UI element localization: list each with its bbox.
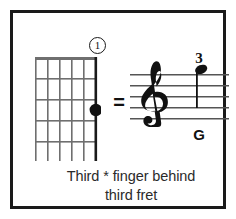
fretboard-nut bbox=[35, 57, 97, 60]
string-line bbox=[35, 57, 37, 161]
string-line bbox=[47, 57, 49, 161]
string-line bbox=[71, 57, 73, 161]
fret-line bbox=[35, 99, 97, 101]
fret-line bbox=[35, 141, 97, 143]
equals-sign: = bbox=[111, 91, 127, 113]
treble-clef-icon bbox=[141, 61, 168, 127]
caption: Third * finger behind third fret bbox=[27, 167, 235, 205]
fret-number-badge-label: 1 bbox=[95, 40, 101, 51]
caption-line-1: Third * finger behind bbox=[27, 167, 235, 186]
caption-line-2: third fret bbox=[27, 186, 235, 205]
string-line bbox=[83, 57, 85, 161]
guitar-fretboard-diagram bbox=[35, 57, 101, 161]
string-line bbox=[59, 57, 61, 161]
finger-dot bbox=[90, 104, 101, 116]
fret-line bbox=[35, 120, 97, 122]
fret-number-badge: 1 bbox=[89, 37, 106, 54]
music-staff bbox=[130, 51, 230, 131]
fret-line bbox=[35, 78, 97, 80]
note-name-label: G bbox=[189, 126, 209, 143]
note-stem bbox=[196, 68, 198, 108]
card-frame: 1 = bbox=[10, 10, 226, 209]
chord-diagram-screenshot: 1 = bbox=[0, 0, 236, 219]
finger-number-label: 3 bbox=[191, 51, 207, 66]
